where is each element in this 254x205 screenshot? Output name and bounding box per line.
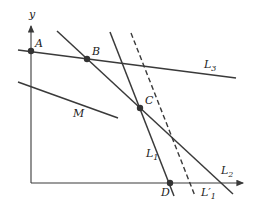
line-L2-label: L2 xyxy=(220,164,233,179)
y-axis-label: y xyxy=(28,8,36,21)
line-L1-prime xyxy=(131,33,195,196)
point-B xyxy=(84,56,90,62)
line-L1-prime-label: L′1 xyxy=(200,186,216,201)
point-B-label: B xyxy=(91,45,100,58)
line-L1 xyxy=(110,32,174,196)
line-M xyxy=(18,82,118,118)
point-A xyxy=(28,48,34,54)
point-C-label: C xyxy=(145,94,154,107)
line-M-label: M xyxy=(72,107,85,120)
geometry-diagram: y A B C D L3 L2 L1 L′1 M xyxy=(0,0,254,205)
point-A-label: A xyxy=(34,37,43,50)
point-D-label: D xyxy=(160,186,170,199)
line-L3-label: L3 xyxy=(203,58,216,73)
point-C xyxy=(137,105,143,111)
